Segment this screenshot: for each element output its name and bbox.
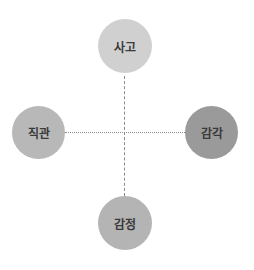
- vertical-axis-line: [124, 76, 125, 196]
- node-intuition-label: 직관: [28, 124, 50, 141]
- node-feeling: 감정: [98, 196, 152, 250]
- node-sensation: 감각: [185, 106, 238, 159]
- node-intuition: 직관: [12, 106, 65, 159]
- node-thinking: 사고: [98, 19, 152, 73]
- node-sensation-label: 감각: [201, 124, 223, 141]
- horizontal-axis-line: [65, 132, 185, 133]
- node-feeling-label: 감정: [114, 215, 136, 232]
- node-thinking-label: 사고: [114, 38, 136, 55]
